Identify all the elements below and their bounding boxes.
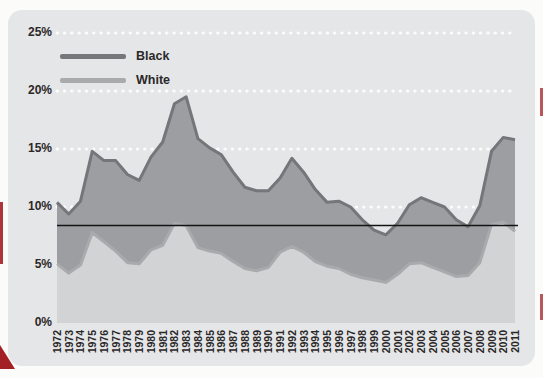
x-tick-label: 1992 (286, 330, 298, 354)
x-tick-label: 1986 (215, 330, 227, 354)
black-series-swatch (60, 54, 126, 59)
x-tick-label: 1994 (309, 330, 321, 354)
x-tick-label: 2004 (427, 330, 439, 354)
legend-label: Black (136, 49, 169, 63)
x-tick-label: 2000 (380, 330, 392, 354)
white-series-swatch (60, 78, 126, 83)
x-tick-label: 2011 (509, 330, 521, 353)
x-tick-label: 1974 (74, 330, 86, 354)
x-tick-label: 1983 (180, 330, 192, 354)
x-tick-label: 1995 (321, 330, 333, 354)
x-tick-label: 1978 (121, 330, 133, 354)
x-tick-label: 1972 (51, 330, 63, 354)
x-tick-label: 2003 (415, 330, 427, 354)
legend-item-white: White (60, 68, 170, 92)
x-tick-label: 1981 (157, 330, 169, 354)
legend-item-black: Black (60, 44, 170, 68)
chart-legend: Black White (60, 44, 170, 92)
scanned-figure: 1972197319741975197619771978197919801981… (0, 0, 543, 378)
y-tick-label: 0% (10, 315, 52, 329)
x-tick-label: 1985 (204, 330, 216, 354)
x-tick-label: 1982 (168, 330, 180, 354)
x-tick-label: 2005 (439, 330, 451, 354)
y-tick-label: 10% (10, 199, 52, 213)
x-tick-label: 2008 (474, 330, 486, 354)
legend-label: White (136, 73, 170, 87)
y-tick-label: 20% (10, 83, 52, 97)
x-tick-label: 1998 (356, 330, 368, 354)
y-tick-label: 5% (10, 257, 52, 271)
x-tick-label: 1990 (262, 330, 274, 354)
x-tick-label: 1987 (227, 330, 239, 354)
x-tick-label: 2002 (403, 330, 415, 354)
x-tick-label: 1997 (345, 330, 357, 354)
x-tick-label: 1976 (98, 330, 110, 354)
x-tick-label: 1980 (145, 330, 157, 354)
x-tick-label: 1973 (63, 330, 75, 354)
x-tick-label: 1979 (133, 330, 145, 354)
x-tick-label: 2010 (497, 330, 509, 354)
x-tick-label: 1977 (110, 330, 122, 354)
x-tick-label: 2009 (486, 330, 498, 354)
y-tick-label: 25% (10, 25, 52, 39)
x-tick-label: 1975 (86, 330, 98, 354)
x-tick-label: 1991 (274, 330, 286, 354)
x-tick-label: 2001 (392, 330, 404, 354)
x-tick-label: 1999 (368, 330, 380, 354)
x-tick-label: 1993 (298, 330, 310, 354)
x-tick-label: 1996 (333, 330, 345, 354)
x-tick-label: 2007 (462, 330, 474, 354)
x-tick-label: 2006 (450, 330, 462, 354)
x-tick-label: 1989 (251, 330, 263, 354)
x-tick-label: 1988 (239, 330, 251, 354)
x-tick-label: 1984 (192, 330, 204, 354)
y-tick-label: 15% (10, 141, 52, 155)
